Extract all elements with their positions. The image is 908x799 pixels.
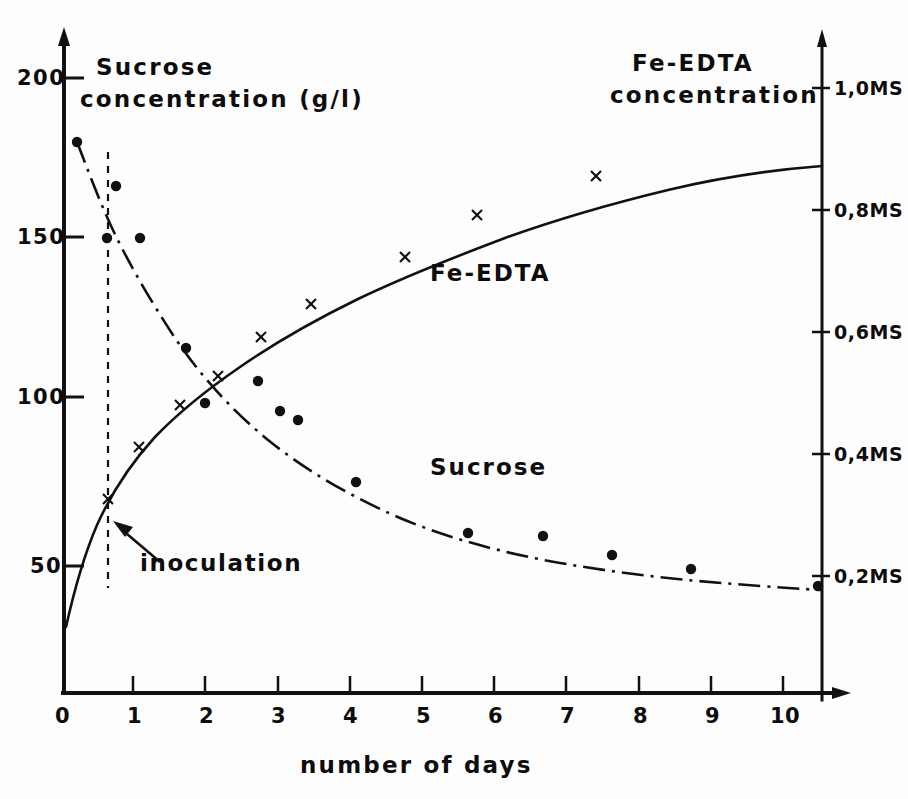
chart-canvas bbox=[0, 0, 908, 799]
left-axis-title-line2: concentration (g/l) bbox=[80, 84, 364, 114]
right-axis-tick-label-0-4ms: 0,4MS bbox=[834, 442, 903, 467]
right-axis-tick-label-0-6ms: 0,6MS bbox=[834, 320, 903, 345]
x-axis-tick-label-4: 4 bbox=[343, 703, 358, 731]
x-axis-tick-label-1: 1 bbox=[127, 703, 142, 731]
right-axis-arrow-icon bbox=[817, 29, 827, 47]
x-axis-tick-label-8: 8 bbox=[633, 703, 648, 731]
right-axis-title-line1: Fe-EDTA bbox=[632, 48, 754, 78]
x-axis-tick-label-9: 9 bbox=[705, 703, 720, 731]
x-axis-title: number of days bbox=[300, 750, 533, 780]
sucrose-curve bbox=[77, 142, 822, 590]
right-axis-tick-label-0-2ms: 0,2MS bbox=[834, 564, 903, 589]
x-axis-arrow-icon bbox=[832, 687, 851, 699]
left-axis-tick-label-150: 150 bbox=[17, 224, 65, 252]
x-axis-tick-label-7: 7 bbox=[560, 703, 575, 731]
left-axis bbox=[58, 27, 84, 693]
right-axis-title-line2: concentration bbox=[610, 80, 819, 110]
x-axis-tick-label-2: 2 bbox=[199, 703, 214, 731]
right-axis-tick-label-1-0ms: 1,0MS bbox=[834, 76, 903, 101]
x-axis-tick-label-10: 10 bbox=[770, 703, 800, 731]
sucrose-data-markers bbox=[72, 137, 823, 591]
series-label-fe-edta: Fe-EDTA bbox=[430, 258, 550, 288]
chart-figure: 200 150 100 50 1,0MS 0,8MS 0,6MS 0,4MS 0… bbox=[0, 0, 908, 799]
x-axis-tick-label-3: 3 bbox=[271, 703, 286, 731]
right-axis-tick-label-0-8ms: 0,8MS bbox=[834, 198, 903, 223]
left-axis-arrow-icon bbox=[58, 27, 70, 46]
left-axis-tick-label-50: 50 bbox=[30, 553, 62, 581]
x-axis-tick-label-6: 6 bbox=[488, 703, 503, 731]
left-axis-title-line1: Sucrose bbox=[96, 52, 214, 82]
x-axis-tick-label-0: 0 bbox=[55, 703, 70, 731]
series-label-sucrose: Sucrose bbox=[430, 452, 547, 482]
inoculation-annotation-label: inoculation bbox=[140, 548, 302, 578]
left-axis-tick-label-100: 100 bbox=[17, 384, 65, 412]
x-axis-tick-label-5: 5 bbox=[416, 703, 431, 731]
left-axis-tick-label-200: 200 bbox=[17, 65, 65, 93]
x-axis bbox=[63, 676, 851, 699]
right-axis bbox=[812, 29, 830, 700]
